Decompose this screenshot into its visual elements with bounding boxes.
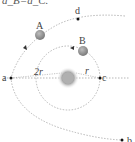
label-A: A: [36, 20, 44, 31]
point-b: [121, 139, 124, 142]
sun-core: [63, 73, 74, 84]
planet-B: [78, 46, 88, 56]
orbit-diagram: a c d b A B 2r r: [0, 0, 135, 142]
label-r: r: [85, 65, 89, 76]
label-a: a: [2, 72, 7, 83]
label-2r: 2r: [34, 66, 43, 77]
label-B: B: [79, 35, 86, 46]
arrow-orbit-B-icon: [70, 46, 74, 50]
planet-A: [35, 30, 45, 40]
point-d: [77, 18, 80, 21]
label-c: c: [102, 72, 107, 83]
label-d: d: [75, 5, 80, 16]
point-a: [10, 77, 13, 80]
arrow-orbit-A-icon: [23, 45, 27, 50]
label-b: b: [127, 135, 132, 142]
